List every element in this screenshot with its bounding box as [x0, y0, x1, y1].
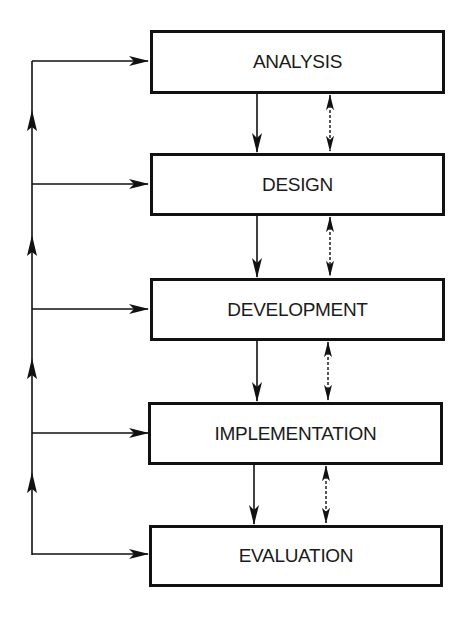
stage-implementation: IMPLEMENTATION — [148, 402, 443, 465]
stage-label: ANALYSIS — [253, 51, 342, 73]
stage-evaluation: EVALUATION — [149, 525, 443, 587]
stage-development: DEVELOPMENT — [150, 278, 445, 341]
stage-label: DEVELOPMENT — [227, 299, 367, 321]
stage-design: DESIGN — [150, 153, 445, 216]
stage-analysis: ANALYSIS — [150, 30, 445, 94]
feedback-arrows — [32, 61, 148, 554]
stage-label: EVALUATION — [239, 545, 354, 567]
feedback-line — [27, 61, 37, 555]
stage-label: IMPLEMENTATION — [215, 423, 377, 445]
addie-flow-diagram: ANALYSIS DESIGN DEVELOPMENT IMPLEMENTATI… — [0, 0, 472, 633]
stage-label: DESIGN — [262, 174, 333, 196]
